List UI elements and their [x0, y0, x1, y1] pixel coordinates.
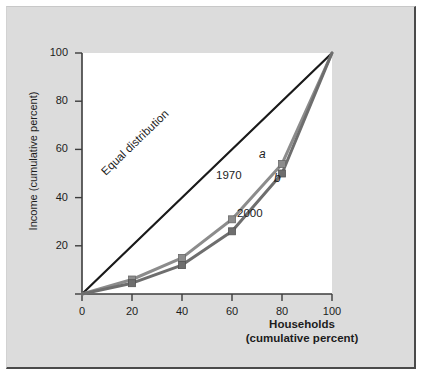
y-axis-ticks — [75, 53, 82, 294]
point-label-b: b — [274, 171, 281, 185]
y-tick-label-100: 100 — [38, 46, 68, 58]
marker-2000-40 — [179, 262, 186, 269]
series-label-2000: 2000 — [237, 207, 263, 219]
figure-panel: 100 80 60 40 20 0 20 40 60 80 100 Income… — [6, 6, 416, 369]
x-tick-label-20: 20 — [117, 305, 147, 317]
y-tick-label-20: 20 — [38, 239, 68, 251]
x-axis-title-line2: (cumulative percent) — [207, 331, 397, 345]
x-tick-label-80: 80 — [267, 305, 297, 317]
x-axis-title: Households (cumulative percent) — [207, 317, 397, 345]
point-label-a: a — [259, 147, 266, 161]
y-tick-label-80: 80 — [38, 94, 68, 106]
equal-distribution-line — [82, 53, 332, 294]
y-tick-label-60: 60 — [38, 142, 68, 154]
marker-2000-20 — [129, 280, 136, 287]
marker-1970-60 — [229, 216, 236, 223]
x-axis-ticks — [82, 294, 332, 301]
x-tick-label-100: 100 — [317, 305, 347, 317]
y-axis-title: Income (cumulative percent) — [27, 61, 39, 261]
x-axis-title-line1: Households — [207, 317, 397, 331]
y-tick-label-40: 40 — [38, 191, 68, 203]
marker-2000-60 — [229, 228, 236, 235]
x-tick-label-60: 60 — [217, 305, 247, 317]
series-label-1970: 1970 — [216, 169, 242, 181]
marker-1970-40 — [179, 254, 186, 261]
x-tick-label-40: 40 — [167, 305, 197, 317]
markers-1970 — [129, 160, 286, 283]
x-tick-label-0: 0 — [67, 305, 97, 317]
marker-1970-80 — [279, 160, 286, 167]
